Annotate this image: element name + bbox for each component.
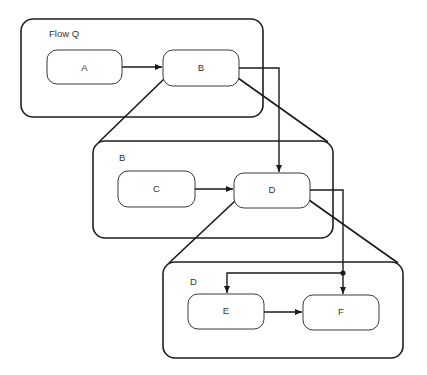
node-label-a: A [81,62,88,73]
node-c[interactable]: C [118,171,195,207]
frame-label-b: B [119,152,125,163]
frame-label-flow-q: Flow Q [49,28,79,39]
node-d[interactable]: D [234,173,310,208]
node-label-e: E [223,305,229,316]
node-label-c: C [153,183,160,194]
frame-label-d: D [190,276,197,287]
node-b[interactable]: B [163,50,239,86]
node-f[interactable]: F [303,295,379,330]
junction-dot [340,270,345,275]
node-label-d: D [269,184,276,195]
node-a[interactable]: A [47,50,122,84]
node-label-b: B [198,62,204,73]
flow-diagram: Flow Q B D A B C D E F [0,0,427,375]
node-e[interactable]: E [188,294,264,329]
node-label-f: F [338,306,344,317]
